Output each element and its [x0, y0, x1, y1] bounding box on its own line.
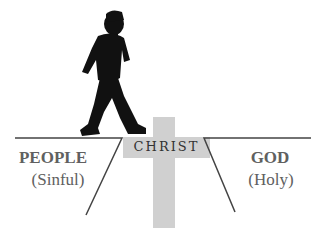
god-sublabel: (Holy) [236, 170, 306, 190]
god-label: GOD [240, 148, 300, 168]
christ-label: CHRIST [123, 139, 210, 154]
people-sublabel: (Sinful) [18, 170, 98, 190]
walking-man-icon [80, 10, 146, 136]
bridge-diagram [0, 0, 321, 242]
people-label: PEOPLE [18, 148, 88, 168]
